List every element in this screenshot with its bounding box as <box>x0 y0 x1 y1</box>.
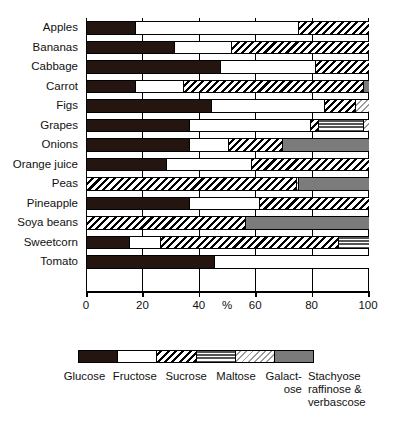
x-tick-60 <box>255 291 257 297</box>
y-axis-label-peas: Peas <box>0 174 82 194</box>
bar-segment-bananas-fructose <box>174 42 230 54</box>
bar-segment-pineapple-fructose <box>189 198 260 210</box>
plot-area: ApplesBananasCabbageCarrotFigsGrapesOnio… <box>0 0 393 345</box>
bar-row-cabbage <box>86 57 368 77</box>
legend-label-fructose: Fructose <box>109 370 161 410</box>
bar-segment-onions-fructose <box>189 139 228 151</box>
bar-segment-figs-galactose <box>355 100 369 112</box>
stacked-bar-carrot <box>86 80 368 94</box>
legend-label-stachyose-line3: verbascose <box>308 396 366 408</box>
bar-row-sweetcorn <box>86 233 368 253</box>
bar-segment-grapes-sucrose <box>310 120 318 132</box>
bar-segment-onions-stachyose-raffinose-verbascose <box>282 139 369 151</box>
bars-area <box>86 18 368 291</box>
bar-segment-grapes-glucose <box>87 120 189 132</box>
legend-swatch-galactose <box>235 351 274 362</box>
legend-swatch-maltose <box>196 351 235 362</box>
bar-row-carrot <box>86 77 368 97</box>
legend-swatch-glucose <box>79 351 117 362</box>
x-tick-20 <box>142 291 144 297</box>
bar-segment-onions-sucrose <box>228 139 282 151</box>
stacked-bar-sweetcorn <box>86 236 368 250</box>
legend-label-stachyose: Stachyose raffinose & verbascose <box>302 370 370 410</box>
legend-swatch-stachyose-raffinose-verbascose <box>274 351 313 362</box>
y-axis-label-sweetcorn: Sweetcorn <box>0 233 82 253</box>
bar-segment-sweetcorn-fructose <box>129 237 160 249</box>
bar-segment-figs-sucrose <box>324 100 355 112</box>
bar-row-bananas <box>86 38 368 58</box>
legend-swatch-bar <box>78 350 314 363</box>
bar-segment-apples-fructose <box>135 22 299 34</box>
bar-row-soya-beans <box>86 213 368 233</box>
bar-segment-tomato-glucose <box>87 256 214 268</box>
x-tick-label-0: 0 <box>66 299 106 311</box>
bar-segment-soya-beans-sucrose <box>87 217 245 229</box>
legend-label-galactose: Galact- ose <box>260 370 301 410</box>
bar-segment-orange-juice-sucrose <box>251 159 369 171</box>
bar-segment-pineapple-glucose <box>87 198 189 210</box>
legend-label-maltose: Maltose <box>212 370 261 410</box>
stacked-bar-onions <box>86 138 368 152</box>
x-axis-ticks <box>86 291 368 297</box>
y-axis-label-orange-juice: Orange juice <box>0 155 82 175</box>
x-tick-40 <box>199 291 201 297</box>
stacked-bar-apples <box>86 21 368 35</box>
bar-segment-grapes-fructose <box>189 120 310 132</box>
bar-segment-apples-glucose <box>87 22 135 34</box>
y-axis-label-onions: Onions <box>0 135 82 155</box>
bar-segment-carrot-stachyose-raffinose-verbascose <box>363 81 369 93</box>
bar-segment-cabbage-glucose <box>87 61 220 73</box>
bar-segment-sweetcorn-maltose <box>338 237 369 249</box>
x-tick-label-20: 20 <box>122 299 162 311</box>
bar-segment-figs-glucose <box>87 100 211 112</box>
legend-swatch-sucrose <box>156 351 195 362</box>
x-tick-label-80: 80 <box>292 299 332 311</box>
bar-row-orange-juice <box>86 155 368 175</box>
x-tick-label-40: 40 <box>179 299 219 311</box>
bar-row-figs <box>86 96 368 116</box>
bar-segment-pineapple-sucrose <box>259 198 369 210</box>
legend-label-row: Glucose Fructose Sucrose Maltose Galact-… <box>60 370 370 410</box>
y-axis-label-tomato: Tomato <box>0 252 82 272</box>
bar-row-apples <box>86 18 368 38</box>
bar-segment-carrot-fructose <box>135 81 183 93</box>
stacked-bar-peas <box>86 177 368 191</box>
bar-segment-carrot-sucrose <box>183 81 363 93</box>
bar-segment-sweetcorn-glucose <box>87 237 129 249</box>
bar-segment-carrot-glucose <box>87 81 135 93</box>
legend-label-galactose-line1: Galact- <box>265 370 301 382</box>
bar-segment-cabbage-sucrose <box>315 61 369 73</box>
legend-label-sucrose: Sucrose <box>161 370 212 410</box>
bar-segment-peas-stachyose-raffinose-verbascose <box>298 178 369 190</box>
y-axis-label-bananas: Bananas <box>0 38 82 58</box>
legend-label-galactose-line2: ose <box>284 383 302 395</box>
bar-segment-peas-sucrose <box>87 178 296 190</box>
y-axis-label-pineapple: Pineapple <box>0 194 82 214</box>
y-axis-label-carrot: Carrot <box>0 77 82 97</box>
y-axis-label-apples: Apples <box>0 18 82 38</box>
stacked-bar-chart: ApplesBananasCabbageCarrotFigsGrapesOnio… <box>0 0 393 422</box>
x-axis-tick-labels: % 020406080100 <box>0 299 393 315</box>
bar-segment-bananas-glucose <box>87 42 174 54</box>
legend-label-stachyose-line1: Stachyose <box>308 370 361 382</box>
stacked-bar-cabbage <box>86 60 368 74</box>
bar-segment-onions-glucose <box>87 139 189 151</box>
bar-rows <box>86 18 368 272</box>
y-axis-label-grapes: Grapes <box>0 116 82 136</box>
bar-row-grapes <box>86 116 368 136</box>
bar-segment-cabbage-fructose <box>220 61 316 73</box>
stacked-bar-pineapple <box>86 197 368 211</box>
bar-row-peas <box>86 174 368 194</box>
bar-segment-tomato-fructose <box>214 256 369 268</box>
stacked-bar-grapes <box>86 119 368 133</box>
chart-legend: Glucose Fructose Sucrose Maltose Galact-… <box>0 350 393 422</box>
bar-segment-bananas-sucrose <box>231 42 369 54</box>
bar-row-tomato <box>86 252 368 272</box>
x-tick-label-100: 100 <box>348 299 388 311</box>
bar-segment-figs-fructose <box>211 100 324 112</box>
y-axis-label-cabbage: Cabbage <box>0 57 82 77</box>
bar-row-onions <box>86 135 368 155</box>
bar-segment-sweetcorn-sucrose <box>160 237 338 249</box>
bar-segment-orange-juice-glucose <box>87 159 166 171</box>
stacked-bar-orange-juice <box>86 158 368 172</box>
